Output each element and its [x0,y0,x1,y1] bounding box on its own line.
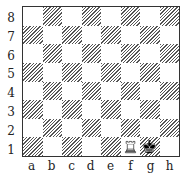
rank-label-8: 8 [4,12,18,24]
square-g5[interactable] [140,63,160,82]
square-d2[interactable] [82,119,102,138]
square-b7[interactable] [43,26,63,45]
black-king-icon[interactable] [140,137,160,156]
square-c7[interactable] [62,26,82,45]
square-e1[interactable] [101,137,121,156]
square-b6[interactable] [43,44,63,63]
square-e3[interactable] [101,100,121,119]
square-f8[interactable] [121,7,141,26]
square-e4[interactable] [101,82,121,101]
square-f1[interactable] [121,137,141,156]
square-b5[interactable] [43,63,63,82]
square-g7[interactable] [140,26,160,45]
file-label-b: b [42,160,61,172]
rank-label-5: 5 [4,68,18,80]
square-c3[interactable] [62,100,82,119]
square-a4[interactable] [23,82,43,101]
square-c4[interactable] [62,82,82,101]
square-d1[interactable] [82,137,102,156]
square-a7[interactable] [23,26,43,45]
square-h6[interactable] [160,44,180,63]
square-f4[interactable] [121,82,141,101]
square-f6[interactable] [121,44,141,63]
square-d5[interactable] [82,63,102,82]
square-h3[interactable] [160,100,180,119]
square-a3[interactable] [23,100,43,119]
square-c8[interactable] [62,7,82,26]
square-h1[interactable] [160,137,180,156]
square-a8[interactable] [23,7,43,26]
file-label-a: a [22,160,41,172]
chess-board [22,6,180,157]
rank-label-3: 3 [4,106,18,118]
square-g2[interactable] [140,119,160,138]
square-g1[interactable] [140,137,160,156]
file-label-c: c [62,160,81,172]
square-b8[interactable] [43,7,63,26]
square-h8[interactable] [160,7,180,26]
rank-label-2: 2 [4,125,18,137]
square-a5[interactable] [23,63,43,82]
square-g6[interactable] [140,44,160,63]
square-e8[interactable] [101,7,121,26]
square-f7[interactable] [121,26,141,45]
square-d7[interactable] [82,26,102,45]
square-e2[interactable] [101,119,121,138]
file-label-f: f [121,160,140,172]
square-h5[interactable] [160,63,180,82]
square-d3[interactable] [82,100,102,119]
file-label-e: e [101,160,120,172]
square-h7[interactable] [160,26,180,45]
white-rook-icon[interactable] [121,137,141,156]
square-a1[interactable] [23,137,43,156]
square-f2[interactable] [121,119,141,138]
file-label-g: g [141,160,160,172]
square-f5[interactable] [121,63,141,82]
square-e6[interactable] [101,44,121,63]
rank-label-4: 4 [4,87,18,99]
square-c5[interactable] [62,63,82,82]
square-d4[interactable] [82,82,102,101]
square-c2[interactable] [62,119,82,138]
square-d6[interactable] [82,44,102,63]
rank-label-7: 7 [4,31,18,43]
file-label-d: d [81,160,100,172]
square-c6[interactable] [62,44,82,63]
square-b4[interactable] [43,82,63,101]
square-a6[interactable] [23,44,43,63]
square-a2[interactable] [23,119,43,138]
square-h2[interactable] [160,119,180,138]
square-e5[interactable] [101,63,121,82]
rank-label-1: 1 [4,144,18,156]
file-label-h: h [160,160,179,172]
square-b2[interactable] [43,119,63,138]
square-g8[interactable] [140,7,160,26]
square-b3[interactable] [43,100,63,119]
square-h4[interactable] [160,82,180,101]
square-d8[interactable] [82,7,102,26]
square-g4[interactable] [140,82,160,101]
square-e7[interactable] [101,26,121,45]
square-c1[interactable] [62,137,82,156]
rank-label-6: 6 [4,50,18,62]
square-f3[interactable] [121,100,141,119]
square-b1[interactable] [43,137,63,156]
square-g3[interactable] [140,100,160,119]
